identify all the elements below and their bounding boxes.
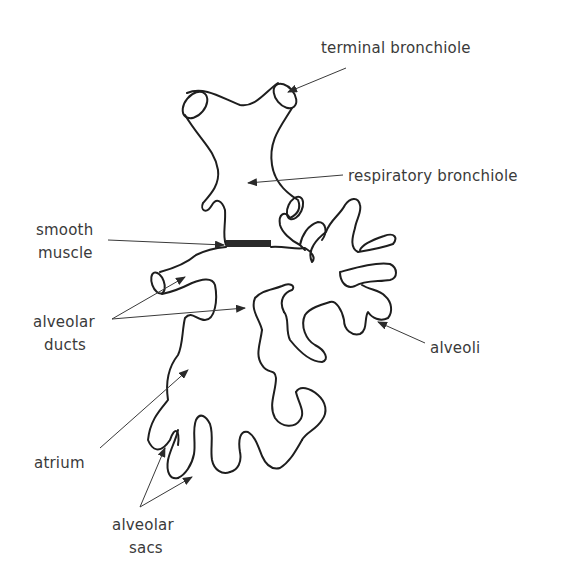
arrow-atrium <box>100 370 188 448</box>
arrow-smooth-muscle <box>108 240 224 245</box>
arrow-terminal-bronchiole <box>288 68 346 92</box>
smooth-muscle-band <box>226 240 271 247</box>
label-atrium: atrium <box>34 454 85 473</box>
alveolar-duct-shape <box>148 247 226 449</box>
label-terminal-bronchiole: terminal bronchiole <box>321 39 471 58</box>
label-alveolar-sacs-line2: sacs <box>129 539 163 558</box>
arrow-alveolar-sac-2 <box>140 477 192 507</box>
arrow-alveolar-duct-2 <box>112 308 245 319</box>
label-alveolar-ducts-line2: ducts <box>44 336 86 355</box>
alveolar-sacs-shape <box>167 199 396 478</box>
arrow-alveolar-duct-1 <box>112 277 185 319</box>
acinus-diagram: terminal bronchiole respiratory bronchio… <box>0 0 580 585</box>
label-respiratory-bronchiole: respiratory bronchiole <box>348 167 518 186</box>
respiratory-bronchiole-shape <box>178 79 307 250</box>
arrow-alveolar-sac-1 <box>140 448 165 507</box>
label-smooth-muscle-line1: smooth <box>36 221 93 240</box>
arrow-respiratory-bronchiole <box>248 175 343 183</box>
label-alveolar-ducts-line1: alveolar <box>33 313 95 332</box>
arrow-alveoli <box>378 322 425 343</box>
label-alveoli: alveoli <box>430 339 480 358</box>
label-smooth-muscle-line2: muscle <box>38 244 93 263</box>
diagram-drawing <box>0 0 580 585</box>
label-alveolar-sacs-line1: alveolar <box>112 516 174 535</box>
